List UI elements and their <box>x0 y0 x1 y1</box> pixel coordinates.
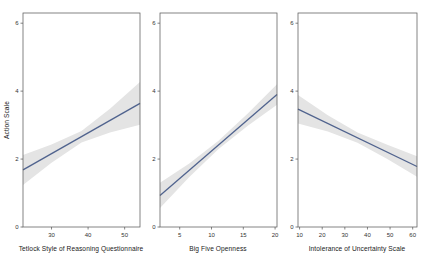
x-tick-label: 40 <box>85 232 92 238</box>
x-tick-label: 30 <box>48 232 55 238</box>
x-tick-label: 10 <box>296 232 303 238</box>
regression-line <box>298 109 417 166</box>
y-tick-label: 0 <box>152 224 156 230</box>
panel-2: 51015200246 <box>152 13 279 238</box>
x-tick-label: 20 <box>319 232 326 238</box>
y-tick-label: 6 <box>152 20 156 26</box>
panel-1: 3040500246 <box>15 13 140 238</box>
y-tick-label: 2 <box>152 156 156 162</box>
y-tick-label: 6 <box>15 20 19 26</box>
y-tick-label: 4 <box>15 88 19 94</box>
x-axis-title-openness: Big Five Openness <box>189 245 246 252</box>
y-tick-label: 0 <box>290 224 294 230</box>
x-tick-label: 5 <box>178 232 182 238</box>
x-axis-title-uncertainty: Intolerance of Uncertainty Scale <box>309 245 406 252</box>
chart-figure: 3040500246510152002461020304050600246 Te… <box>0 0 424 265</box>
x-tick-label: 40 <box>364 232 371 238</box>
x-tick-label: 20 <box>272 232 279 238</box>
confidence-band <box>160 84 277 208</box>
confidence-band <box>298 95 417 177</box>
y-tick-label: 2 <box>15 156 19 162</box>
confidence-band <box>23 82 140 185</box>
x-tick-label: 50 <box>121 232 128 238</box>
regression-line <box>160 95 277 196</box>
y-tick-label: 6 <box>290 20 294 26</box>
x-tick-label: 30 <box>341 232 348 238</box>
chart-canvas: 3040500246510152002461020304050600246 <box>0 0 424 265</box>
panel-3: 1020304050600246 <box>290 13 417 238</box>
x-axis-title-tetlock: Tetlock Style of Reasoning Questionnaire <box>19 245 144 252</box>
y-tick-label: 4 <box>152 88 156 94</box>
regression-line <box>23 103 140 169</box>
y-tick-label: 2 <box>290 156 294 162</box>
x-tick-label: 60 <box>409 232 416 238</box>
x-tick-label: 15 <box>240 232 247 238</box>
y-axis-title: Action Scale <box>3 101 10 139</box>
y-tick-label: 0 <box>15 224 19 230</box>
panel-border <box>160 13 277 227</box>
y-tick-label: 4 <box>290 88 294 94</box>
x-tick-label: 10 <box>208 232 215 238</box>
x-tick-label: 50 <box>387 232 394 238</box>
